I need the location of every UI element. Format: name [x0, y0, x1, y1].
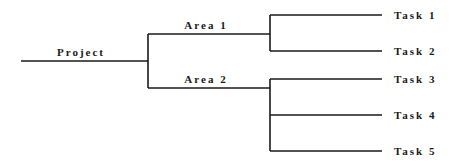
- node-task-4: Task 4: [394, 109, 436, 121]
- node-project: Project: [57, 46, 105, 58]
- tree-diagram: Project Area 1 Area 2 Task 1 Task 2 Task…: [0, 0, 456, 164]
- node-area-1: Area 1: [184, 19, 227, 31]
- connector-lines: [0, 0, 456, 164]
- node-task-5: Task 5: [394, 145, 436, 157]
- node-area-2: Area 2: [184, 73, 227, 85]
- node-task-1: Task 1: [394, 9, 436, 21]
- node-task-3: Task 3: [394, 73, 436, 85]
- node-task-2: Task 2: [394, 45, 436, 57]
